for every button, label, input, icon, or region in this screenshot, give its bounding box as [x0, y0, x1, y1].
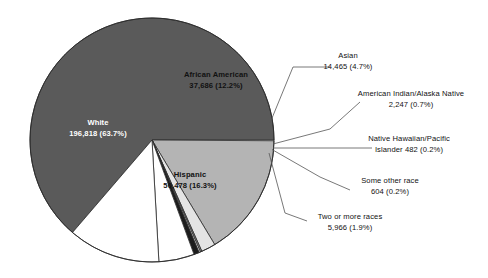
slice-label-african-american-value: 37,686 (12.2%): [160, 81, 272, 92]
slice-callout-two-or-more-races-name: Two or more races: [290, 212, 410, 223]
slice-label-white: White 196,818 (63.7%): [42, 118, 154, 139]
slice-label-african-american-name: African American: [160, 70, 272, 81]
pie-chart-figure: White 196,818 (63.7%) African American 3…: [0, 0, 488, 278]
slice-callout-asian-value: 14,465 (4.7%): [296, 62, 400, 73]
slice-label-african-american: African American 37,686 (12.2%): [160, 70, 272, 91]
slice-callout-some-other-race: Some other race 604 (0.2%): [330, 176, 450, 197]
slice-callout-american-indian-alaska-native: American Indian/Alaska Native 2,247 (0.7…: [336, 89, 486, 110]
slice-callout-american-indian-alaska-native-name: American Indian/Alaska Native: [336, 89, 486, 100]
slice-callout-asian: Asian 14,465 (4.7%): [296, 51, 400, 72]
slice-callout-native-hawaiian-pacific-islander-value: Islander 482 (0.2%): [334, 145, 484, 156]
slice-callout-american-indian-alaska-native-value: 2,247 (0.7%): [336, 100, 486, 111]
slice-label-hispanic-name: Hispanic: [136, 170, 244, 181]
leader-line-two-or-more-races: [269, 153, 307, 221]
slice-callout-native-hawaiian-pacific-islander-name: Native Hawaiian/Pacific: [334, 134, 484, 145]
slice-callout-some-other-race-value: 604 (0.2%): [330, 187, 450, 198]
slice-callout-native-hawaiian-pacific-islander: Native Hawaiian/Pacific Islander 482 (0.…: [334, 134, 484, 155]
slice-callout-asian-name: Asian: [296, 51, 400, 62]
slice-label-hispanic: Hispanic 50,478 (16.3%): [136, 170, 244, 191]
slice-label-hispanic-value: 50,478 (16.3%): [136, 181, 244, 192]
slice-callout-two-or-more-races: Two or more races 5,966 (1.9%): [290, 212, 410, 233]
slice-callout-some-other-race-name: Some other race: [330, 176, 450, 187]
pie-slices: [30, 18, 274, 262]
slice-callout-two-or-more-races-value: 5,966 (1.9%): [290, 223, 410, 234]
leader-line-asian: [270, 67, 330, 123]
slice-label-white-name: White: [42, 118, 154, 129]
slice-label-white-value: 196,818 (63.7%): [42, 129, 154, 140]
